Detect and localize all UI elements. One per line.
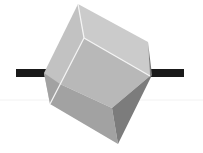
cube-diagram	[0, 0, 203, 153]
cube-illustration	[0, 0, 203, 153]
axle-right	[150, 69, 184, 77]
axle-left	[16, 69, 46, 77]
